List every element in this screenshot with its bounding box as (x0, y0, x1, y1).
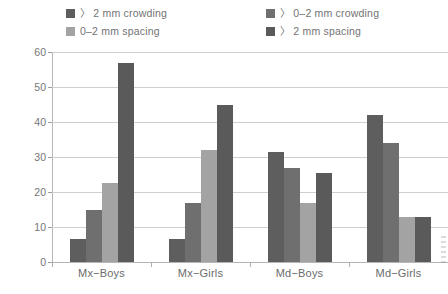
x-category-label: Md−Girls (349, 268, 448, 279)
y-tick-label: 50 (16, 82, 46, 93)
x-axis-tick (250, 262, 251, 267)
bar (86, 210, 102, 263)
bar (300, 203, 316, 263)
y-tick-label: 20 (16, 187, 46, 198)
cropped-edge-artifact (441, 236, 448, 280)
x-axis-tick (52, 262, 53, 267)
x-category-label: Mx−Boys (52, 268, 151, 279)
bar (217, 105, 233, 263)
y-tick-label: 40 (16, 117, 46, 128)
bar (118, 63, 134, 263)
bar (169, 239, 185, 262)
x-axis-tick (349, 262, 350, 267)
bar-group (268, 52, 332, 262)
plot-area (52, 52, 448, 262)
y-tick-label: 60 (16, 47, 46, 58)
y-tick-label: 10 (16, 222, 46, 233)
bar (316, 173, 332, 262)
bar-group (70, 52, 134, 262)
bar (185, 203, 201, 263)
bar (201, 150, 217, 262)
bar-group (367, 52, 431, 262)
y-tick-label: 0 (16, 257, 46, 268)
bar (383, 143, 399, 262)
bar-group (169, 52, 233, 262)
bar (70, 239, 86, 262)
x-category-label: Mx−Girls (151, 268, 250, 279)
bar (367, 115, 383, 262)
bar (268, 152, 284, 262)
bar (284, 168, 300, 263)
x-axis-tick (151, 262, 152, 267)
x-category-label: Md−Boys (250, 268, 349, 279)
bar (415, 217, 431, 263)
bar (399, 217, 415, 263)
bar (102, 183, 118, 262)
y-tick-label: 30 (16, 152, 46, 163)
bar-chart: 〉 2 mm crowding 〉 0–2 mm crowding 0–2 mm… (0, 0, 448, 294)
